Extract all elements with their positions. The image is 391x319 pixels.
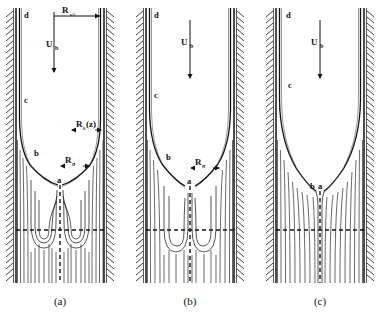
panel-b-label-Ub: U [181, 37, 188, 47]
diagram-svg: R s∞ U b R s (z) R σ d c b a [0, 0, 391, 319]
panel-b-label-Rsigma-sub: σ [202, 163, 206, 169]
panel-b-Ub-arrow [188, 20, 193, 79]
panel-c-label-Ub: U [311, 37, 318, 47]
panel-b-label-Ub-sub: b [190, 43, 194, 49]
panel-a-node-a: a [57, 175, 62, 185]
label-Rs-infinity-sub: s∞ [70, 12, 76, 17]
label-Rs-infinity: R [62, 5, 69, 15]
panel-c-right-wall [364, 8, 374, 283]
panel-a-right-wall [104, 8, 114, 283]
panel-b-label-Rsigma: R [195, 157, 202, 167]
panel-c-Ub-arrow [318, 20, 323, 79]
caption-panel-c: (c) [300, 295, 340, 307]
panel-b-node-d: d [154, 10, 159, 20]
panel-a-node-c: c [24, 95, 28, 105]
label-Rsz-suffix: (z) [86, 119, 96, 129]
panel-c-node-b: b [310, 181, 315, 191]
panel-a-left-hatch [6, 11, 13, 281]
panel-c-right-hatch [367, 11, 374, 281]
panel-a-node-b: b [34, 148, 39, 158]
panel-a-left-wall [6, 8, 16, 283]
panel-c-label-Ub-sub: b [320, 43, 324, 49]
panel-c-node-c: c [288, 80, 292, 90]
label-Ub: U [46, 39, 53, 49]
panel-a-interface [20, 8, 101, 185]
panel-a-streamlines [18, 140, 104, 283]
label-Rsigma: R [65, 155, 72, 165]
caption-panel-a: (a) [40, 295, 80, 307]
label-Rsigma-sub: σ [72, 161, 76, 167]
panel-b-right-wall [234, 8, 244, 283]
label-Ub-sub: b [55, 45, 59, 51]
panel-c: U b d c b a [266, 8, 374, 283]
panel-c-left-hatch [266, 11, 273, 281]
panel-b-left-wall [136, 8, 146, 283]
panel-b-right-hatch [237, 11, 244, 281]
panel-a-Rsinf-measure [54, 12, 100, 28]
panel-b-node-b: b [166, 152, 171, 162]
panel-b-left-hatch [136, 11, 143, 281]
panel-b-node-c: c [154, 90, 158, 100]
caption-panel-b: (b) [170, 295, 210, 307]
panel-c-left-wall [266, 8, 276, 283]
panel-a-node-d: d [24, 10, 29, 20]
figure-container: R s∞ U b R s (z) R σ d c b a [0, 0, 391, 319]
panel-c-node-a: a [318, 181, 323, 191]
panel-b: U b R σ d c b a [136, 8, 244, 283]
panel-a-right-hatch [107, 11, 114, 281]
panel-b-node-a: a [187, 176, 192, 186]
panel-a: R s∞ U b R s (z) R σ d c b a [6, 5, 114, 283]
panel-c-node-d: d [286, 10, 291, 20]
label-Rsz: R [76, 119, 83, 129]
panel-a-film-lines [22, 8, 99, 187]
